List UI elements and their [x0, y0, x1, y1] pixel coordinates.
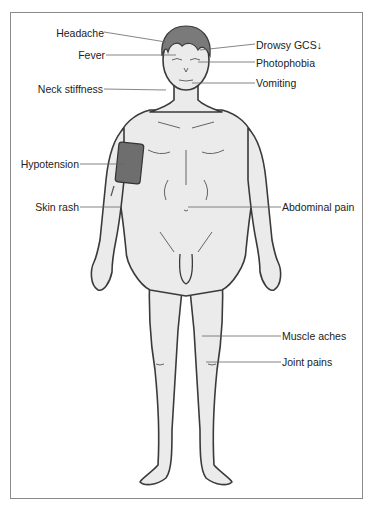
label-hypotension: Hypotension [14, 158, 79, 170]
label-photophobia: Photophobia [256, 57, 315, 69]
label-skin-rash: Skin rash [14, 201, 79, 213]
bp-cuff [115, 142, 144, 184]
label-vomiting: Vomiting [256, 77, 296, 89]
right-leg [190, 270, 232, 485]
left-leg [140, 270, 182, 485]
label-fever: Fever [20, 49, 105, 61]
label-drowsy-gcs: Drowsy GCS↓ [256, 39, 322, 51]
label-neck-stiffness: Neck stiffness [20, 83, 103, 95]
label-headache: Headache [20, 27, 104, 39]
label-muscle-aches: Muscle aches [282, 330, 346, 342]
label-joint-pains: Joint pains [282, 356, 332, 368]
label-abdominal-pain: Abdominal pain [282, 201, 354, 213]
right-arm [248, 128, 281, 290]
torso [117, 110, 256, 296]
human-body-figure [0, 0, 372, 507]
